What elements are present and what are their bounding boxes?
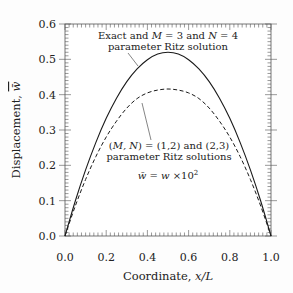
x-tick-label: 0.4	[139, 251, 157, 264]
y-tick-label: 0.5	[39, 53, 57, 66]
dashed-label-line1: (M, N) = (1,2) and (2,3)	[109, 140, 230, 151]
plot-area	[65, 24, 271, 236]
x-tick-label: 0.8	[221, 251, 239, 264]
y-axis-label: Displacement, w̄	[9, 81, 23, 178]
x-tick-label: 0.2	[97, 251, 115, 264]
x-axis-label: Coordinate, x/L	[123, 269, 213, 283]
solid-label-line2: parameter Ritz solution	[108, 41, 229, 52]
scale-note: w̄ = w ×102	[138, 169, 199, 181]
y-tick-label: 0.4	[39, 89, 57, 102]
x-tick-label: 1.0	[262, 251, 280, 264]
y-tick-label: 0.2	[39, 159, 57, 172]
dashed-label-line2: parameter Ritz solutions	[106, 151, 231, 162]
displacement-chart: 0.00.10.20.30.40.50.6 0.00.20.40.60.81.0…	[0, 0, 293, 293]
y-tick-label: 0.0	[39, 230, 57, 243]
solid-label-line1: Exact and M = 3 and N = 4	[98, 30, 238, 41]
y-tick-label: 0.6	[39, 18, 57, 31]
x-tick-label: 0.0	[56, 251, 74, 264]
y-tick-label: 0.1	[39, 195, 57, 208]
x-tick-label: 0.6	[180, 251, 198, 264]
y-tick-label: 0.3	[39, 124, 57, 137]
